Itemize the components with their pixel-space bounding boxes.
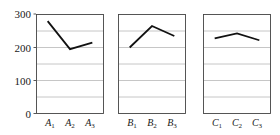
chart-figure: 300 200 100 0 A1 A2 A3 bbox=[0, 0, 280, 135]
panel-b-category-label-3: B3 bbox=[167, 117, 177, 130]
y-tick-label-100: 100 bbox=[15, 75, 32, 87]
y-axis: 300 200 100 0 bbox=[15, 8, 37, 120]
panel-a-category-label-2: A2 bbox=[64, 117, 75, 130]
panel-c-category-label-2: C2 bbox=[232, 117, 243, 130]
panel-c-category-label-1: C1 bbox=[212, 117, 223, 130]
y-tick-label-200: 200 bbox=[15, 42, 32, 54]
panel-a-category-label-3: A3 bbox=[84, 117, 95, 130]
panel-b-category-label-2: B2 bbox=[147, 117, 157, 130]
y-tick-label-0: 0 bbox=[26, 108, 32, 120]
panel-c: C1 C2 C3 bbox=[204, 15, 271, 130]
line-chart-small-multiples: 300 200 100 0 A1 A2 A3 bbox=[0, 0, 280, 135]
panel-b: B1 B2 B3 bbox=[119, 15, 186, 130]
panel-b-category-label-1: B1 bbox=[127, 117, 137, 130]
y-tick-label-300: 300 bbox=[15, 8, 32, 20]
panel-a-category-label-1: A1 bbox=[44, 117, 55, 130]
panel-a: A1 A2 A3 bbox=[37, 15, 104, 130]
panel-c-category-label-3: C3 bbox=[252, 117, 263, 130]
